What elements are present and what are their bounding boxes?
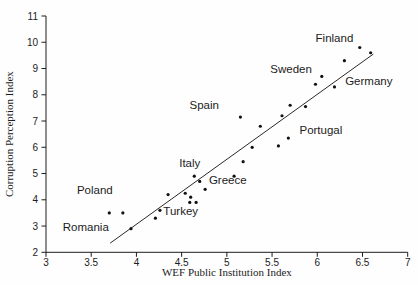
data-point <box>289 104 292 107</box>
data-point <box>277 144 280 147</box>
y-tick-label: 7 <box>32 116 38 127</box>
data-point <box>166 193 169 196</box>
y-tick-label: 3 <box>32 221 38 232</box>
data-point <box>198 180 201 183</box>
data-point <box>121 211 124 214</box>
data-point <box>343 59 346 62</box>
y-tick-label: 4 <box>32 194 38 205</box>
scatter-plot-svg: 23456789101133.544.555.566.57PolandRoman… <box>0 0 418 285</box>
data-point <box>333 85 336 88</box>
x-tick-label: 7 <box>405 257 411 268</box>
x-tick-label: 3 <box>43 257 49 268</box>
y-tick-label: 8 <box>32 89 38 100</box>
data-point <box>184 192 187 195</box>
data-point <box>239 115 242 118</box>
y-tick-label: 2 <box>32 247 38 258</box>
x-tick-label: 6.5 <box>356 257 370 268</box>
y-tick-label: 6 <box>32 142 38 153</box>
x-tick-label: 4 <box>134 257 140 268</box>
country-label-greece: Greece <box>209 174 247 186</box>
data-point <box>304 105 307 108</box>
country-label-poland: Poland <box>77 184 113 196</box>
data-point <box>154 217 157 220</box>
data-point <box>108 211 111 214</box>
country-label-sweden: Sweden <box>270 63 312 75</box>
x-tick-label: 3.5 <box>84 257 98 268</box>
y-tick-label: 11 <box>28 11 39 22</box>
data-point <box>287 136 290 139</box>
y-tick-label: 5 <box>32 168 38 179</box>
y-tick-label: 10 <box>27 37 39 48</box>
trend-line <box>110 54 373 243</box>
y-tick-label: 9 <box>32 63 38 74</box>
data-point <box>369 51 372 54</box>
data-point <box>189 196 192 199</box>
country-label-italy: Italy <box>179 157 200 169</box>
data-point <box>358 46 361 49</box>
data-point <box>242 160 245 163</box>
data-point <box>158 209 161 212</box>
x-axis-title: WEF Public Institution Index <box>162 266 292 278</box>
country-label-turkey: Turkey <box>163 205 198 217</box>
country-label-finland: Finland <box>316 32 354 44</box>
x-tick-label: 6 <box>314 257 320 268</box>
data-point <box>320 75 323 78</box>
data-point <box>314 83 317 86</box>
data-point <box>188 201 191 204</box>
data-point <box>195 201 198 204</box>
data-point <box>280 114 283 117</box>
country-label-germany: Germany <box>345 75 393 87</box>
y-axis-title: Corruption Perception Index <box>3 71 15 197</box>
data-point <box>259 125 262 128</box>
country-label-romania: Romania <box>63 221 110 233</box>
chart-figure: 23456789101133.544.555.566.57PolandRoman… <box>0 0 418 285</box>
country-label-portugal: Portugal <box>299 124 342 136</box>
data-point <box>129 227 132 230</box>
data-point <box>251 146 254 149</box>
country-label-spain: Spain <box>190 99 219 111</box>
data-point <box>193 175 196 178</box>
data-point <box>204 188 207 191</box>
